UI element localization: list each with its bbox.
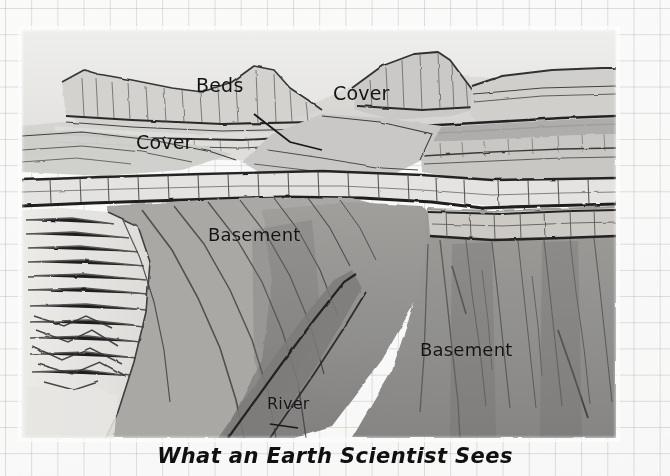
label-cover-left: Cover xyxy=(136,133,193,152)
figure-canvas: Beds Cover Cover Basement Basement River… xyxy=(0,0,670,476)
label-beds: Beds xyxy=(196,76,243,95)
figure-caption: What an Earth Scientist Sees xyxy=(0,444,670,468)
label-cover-top: Cover xyxy=(333,84,390,103)
label-basement-lower: Basement xyxy=(420,341,513,359)
label-river: River xyxy=(267,396,309,412)
canyon-sketch xyxy=(22,30,616,438)
pencil-grain-overlay xyxy=(22,30,616,438)
label-basement-upper: Basement xyxy=(208,226,301,244)
